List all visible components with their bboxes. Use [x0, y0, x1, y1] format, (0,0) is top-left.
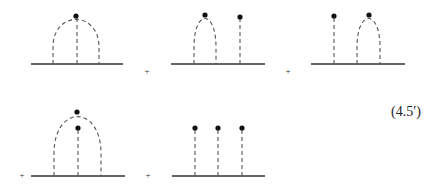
vertex-dot	[331, 13, 336, 18]
propagator-arch	[357, 19, 380, 64]
diagram-d1	[31, 13, 123, 64]
plus-operator: +	[19, 170, 24, 180]
diagram-d5	[172, 125, 265, 176]
diagram-d3	[311, 12, 405, 64]
feynman-diagram-sum: ++++	[0, 0, 444, 188]
vertex-dot	[239, 125, 244, 130]
vertex-dot	[74, 109, 79, 114]
diagram-d4	[31, 109, 125, 176]
plus-operator: +	[285, 66, 290, 76]
plus-operator: +	[145, 170, 150, 180]
propagator-arch	[53, 19, 99, 64]
plus-operator: +	[144, 66, 149, 76]
equation-number: (4.5′)	[391, 104, 421, 120]
diagram-d2	[171, 12, 265, 64]
vertex-dot	[237, 14, 242, 19]
vertex-dot	[73, 13, 78, 18]
vertex-dot	[202, 12, 207, 17]
propagator-arch	[194, 19, 216, 64]
vertex-dot	[215, 125, 220, 130]
vertex-dot	[75, 125, 80, 130]
vertex-dot	[192, 125, 197, 130]
vertex-dot	[366, 12, 371, 17]
